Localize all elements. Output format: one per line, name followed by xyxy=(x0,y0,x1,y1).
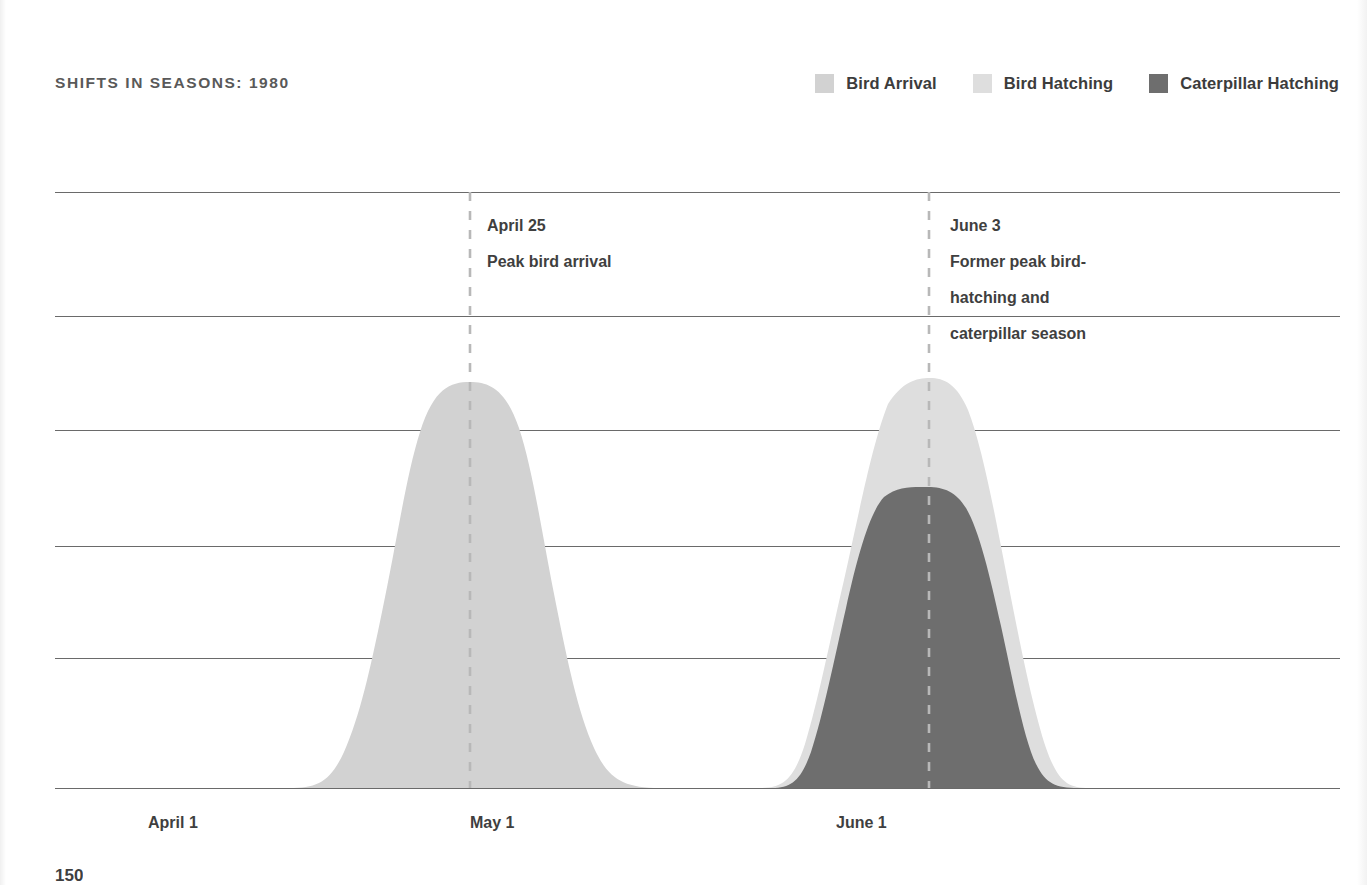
x-tick-label-june-1: June 1 xyxy=(836,814,887,832)
page-number: 150 xyxy=(55,866,83,885)
annotation-2-line-1: June 3 xyxy=(950,208,1086,244)
annotation-2-line-4: caterpillar season xyxy=(950,316,1086,352)
x-tick-label-may-1: May 1 xyxy=(470,814,514,832)
area-bird-arrival xyxy=(289,382,660,788)
chart-svg xyxy=(0,0,1367,885)
gridlines xyxy=(55,193,1340,789)
annotation-2-line-3: hatching and xyxy=(950,280,1086,316)
annotation-former-peak-hatching: June 3 Former peak bird- hatching and ca… xyxy=(950,208,1086,352)
annotation-2-line-2: Former peak bird- xyxy=(950,244,1086,280)
annotation-1-line-1: April 25 xyxy=(487,208,612,244)
chart-plot-area xyxy=(0,0,1367,885)
annotation-peak-bird-arrival: April 25 Peak bird arrival xyxy=(487,208,612,280)
x-tick-label-april-1: April 1 xyxy=(148,814,198,832)
annotation-1-line-2: Peak bird arrival xyxy=(487,244,612,280)
page-canvas: SHIFTS IN SEASONS: 1980 Bird Arrival Bir… xyxy=(0,0,1367,885)
